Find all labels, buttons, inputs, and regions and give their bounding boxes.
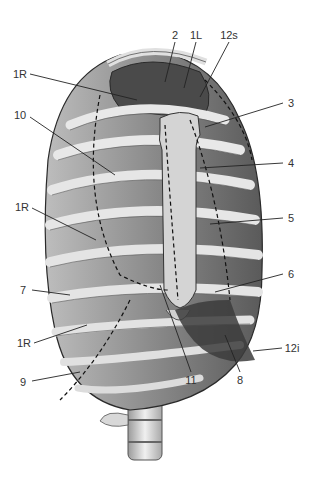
label-7: 7 bbox=[20, 284, 26, 296]
label-1R-a: 1R bbox=[13, 68, 27, 80]
label-6: 6 bbox=[288, 268, 294, 280]
label-2: 2 bbox=[172, 29, 178, 41]
label-4: 4 bbox=[288, 157, 294, 169]
rib-cage-diagram: 2 1L 12s 1R 10 3 4 1R 5 6 7 1R 12i 11 8 … bbox=[0, 0, 309, 484]
label-3: 3 bbox=[288, 97, 294, 109]
label-1R-b: 1R bbox=[15, 201, 29, 213]
label-12i: 12i bbox=[285, 342, 300, 354]
leader-lines bbox=[0, 0, 309, 484]
label-1L: 1L bbox=[190, 29, 202, 41]
label-12s: 12s bbox=[220, 29, 238, 41]
label-11: 11 bbox=[185, 374, 196, 386]
label-1R-c: 1R bbox=[17, 337, 31, 349]
label-10: 10 bbox=[14, 109, 26, 121]
label-9: 9 bbox=[20, 376, 26, 388]
label-5: 5 bbox=[288, 212, 294, 224]
label-8: 8 bbox=[237, 374, 243, 386]
